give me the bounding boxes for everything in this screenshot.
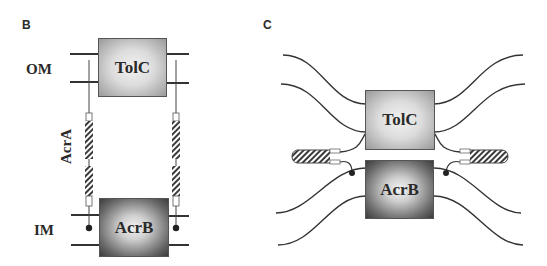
tolc-box-c: TolC xyxy=(365,90,435,150)
acra-label: AcrA xyxy=(58,125,75,169)
figure: B C OM IM AcrA TolC AcrB TolC AcrB xyxy=(0,0,547,266)
acra-left xyxy=(85,60,93,231)
acrb-box-b: AcrB xyxy=(99,198,169,257)
om-label: OM xyxy=(26,61,52,78)
tolc-box-b: TolC xyxy=(98,38,167,97)
acrb-box-c: AcrB xyxy=(365,160,434,219)
acra-left-c xyxy=(292,149,355,176)
acra-right xyxy=(172,60,180,231)
diagram-lines xyxy=(0,0,547,266)
panel-c-label: C xyxy=(263,18,272,32)
im-label: IM xyxy=(34,222,54,239)
panel-b-label: B xyxy=(22,18,31,32)
